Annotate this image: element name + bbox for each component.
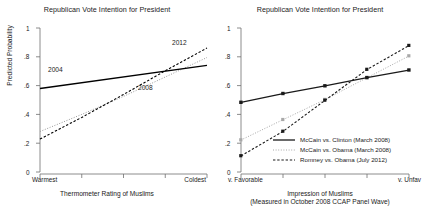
right-x-axis-label-sub: (Measured in October 2008 CCAP Panel Wav… xyxy=(213,198,427,206)
left-ytick-08: .8 xyxy=(24,53,29,60)
left-ytick-04: .4 xyxy=(24,111,29,118)
legend-label-mccain-obama: McCain vs. Obama (March 2008) xyxy=(300,146,391,154)
right-x-axis-label: Impression of Muslims (Measured in Octob… xyxy=(213,190,427,207)
right-chart-legend: McCain vs. Clinton (March 2008) McCain v… xyxy=(272,135,391,165)
left-annotation-2012: 2012 xyxy=(172,39,187,46)
legend-item-romney-obama[interactable]: Romney vs. Obama (July 2012) xyxy=(272,155,391,165)
legend-key-dotted-icon xyxy=(272,146,296,154)
left-annotation-2008: 2008 xyxy=(138,84,153,91)
left-plot-area xyxy=(0,0,214,218)
left-ytick-02: .2 xyxy=(24,140,29,147)
left-y-ticks xyxy=(36,28,40,172)
left-x-axis-label: Thermometer Rating of Muslims xyxy=(0,190,214,197)
right-ytick-1: 1 xyxy=(227,25,231,32)
right-xtick-favorable: v. Favorable xyxy=(228,176,263,183)
right-ytick-06: .6 xyxy=(225,82,230,89)
right-ytick-04: .4 xyxy=(225,111,230,118)
left-xtick-warmest: Warmest xyxy=(32,176,57,183)
left-ytick-06: .6 xyxy=(24,82,29,89)
right-x-axis-label-main: Impression of Muslims xyxy=(213,190,427,198)
legend-key-dashed-icon xyxy=(272,156,296,164)
right-x-ticks xyxy=(241,174,409,178)
figure-two-panel-line-charts: Republican Vote Intention for President … xyxy=(0,0,427,218)
right-chart-panel: Republican Vote Intention for President xyxy=(213,0,427,218)
left-series-2004 xyxy=(40,65,207,88)
right-y-ticks xyxy=(237,28,241,172)
left-xtick-coldest: Coldest xyxy=(184,176,206,183)
left-annotation-2004: 2004 xyxy=(48,66,63,73)
legend-item-mccain-obama[interactable]: McCain vs. Obama (March 2008) xyxy=(272,145,391,155)
left-series-2012 xyxy=(40,48,207,139)
legend-label-romney-obama: Romney vs. Obama (July 2012) xyxy=(300,156,387,164)
left-ytick-0: 0 xyxy=(26,169,30,176)
right-ytick-08: .8 xyxy=(225,53,230,60)
right-xtick-unfav: v. Unfav xyxy=(398,176,421,183)
right-ytick-02: .2 xyxy=(225,140,230,147)
right-ytick-0: 0 xyxy=(227,169,231,176)
right-plot-area xyxy=(213,0,427,218)
legend-key-solid-icon xyxy=(272,136,296,144)
left-chart-panel: Republican Vote Intention for President … xyxy=(0,0,214,218)
left-x-ticks xyxy=(40,174,207,178)
legend-label-mccain-clinton: McCain vs. Clinton (March 2008) xyxy=(300,136,390,144)
legend-item-mccain-clinton[interactable]: McCain vs. Clinton (March 2008) xyxy=(272,135,391,145)
left-ytick-1: 1 xyxy=(26,25,30,32)
